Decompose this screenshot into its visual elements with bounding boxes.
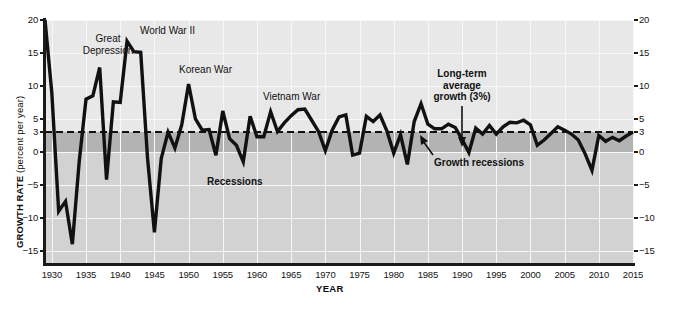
annotation-growth-recessions: Growth recessions bbox=[434, 157, 524, 169]
y-axis-tick-label: 5 bbox=[639, 113, 673, 124]
y-axis-tick-label: 15 bbox=[4, 47, 38, 58]
y-axis-tick-mark bbox=[40, 217, 44, 219]
y-axis-tick-label: 15 bbox=[639, 47, 673, 58]
annotation-lta-line1: Long-term bbox=[407, 68, 517, 80]
annotation-lta-line3: growth (3%) bbox=[407, 91, 517, 103]
y-axis-title-main: GROWTH RATE bbox=[14, 176, 25, 248]
chart-figure: 201510530−5−10−15 201510530−5−10−15 1930… bbox=[0, 0, 673, 315]
y-axis-tick-label: −10 bbox=[639, 212, 673, 223]
annotation-great-depression-line2: Depression bbox=[63, 45, 153, 57]
x-axis-title: YEAR bbox=[316, 283, 344, 294]
y-axis-tick-label: 10 bbox=[639, 80, 673, 91]
annotation-korean-war: Korean War bbox=[179, 64, 232, 76]
y-axis-tick-mark bbox=[40, 151, 44, 153]
y-axis-tick-mark bbox=[40, 250, 44, 252]
y-axis-tick-label: −5 bbox=[639, 179, 673, 190]
y-axis-title: GROWTH RATE (percent per year) bbox=[14, 96, 25, 248]
y-axis-tick-label: −15 bbox=[639, 245, 673, 256]
y-axis-tick-mark bbox=[634, 52, 638, 54]
plot-area bbox=[45, 20, 633, 264]
y-axis-tick-mark bbox=[634, 250, 638, 252]
gridline-vertical bbox=[633, 20, 634, 264]
annotation-vietnam-war: Vietnam War bbox=[263, 91, 320, 103]
y-axis-tick-mark bbox=[634, 118, 638, 120]
y-axis-tick-mark bbox=[40, 85, 44, 87]
annotation-long-term-average-growth: Long-term average growth (3%) bbox=[407, 68, 517, 103]
y-axis-title-unit: (percent per year) bbox=[14, 96, 25, 176]
y-axis-tick-mark bbox=[40, 118, 44, 120]
growth-rate-line bbox=[45, 20, 633, 264]
y-axis-tick-mark bbox=[634, 151, 638, 153]
y-axis-tick-mark bbox=[634, 19, 638, 21]
y-axis-tick-mark bbox=[40, 184, 44, 186]
y-axis-tick-label: 20 bbox=[4, 14, 38, 25]
annotation-recessions: Recessions bbox=[207, 176, 263, 188]
y-axis-tick-mark bbox=[634, 131, 638, 133]
y-axis-tick-label: 0 bbox=[639, 146, 673, 157]
y-axis-tick-mark bbox=[634, 217, 638, 219]
y-axis-tick-mark bbox=[40, 131, 44, 133]
annotation-world-war-ii: World War II bbox=[140, 25, 195, 37]
y-axis-tick-label: 20 bbox=[639, 14, 673, 25]
y-axis-tick-mark bbox=[40, 19, 44, 21]
y-axis-tick-mark bbox=[634, 184, 638, 186]
x-axis-line bbox=[43, 263, 635, 266]
y-axis-tick-mark bbox=[634, 85, 638, 87]
x-axis-tick-label: 2015 bbox=[613, 269, 653, 280]
y-axis-tick-label: 3 bbox=[639, 126, 673, 137]
y-axis-line bbox=[43, 18, 46, 266]
y-axis-tick-label: 10 bbox=[4, 80, 38, 91]
y-axis-tick-mark bbox=[40, 52, 44, 54]
annotation-lta-line2: average bbox=[407, 80, 517, 92]
